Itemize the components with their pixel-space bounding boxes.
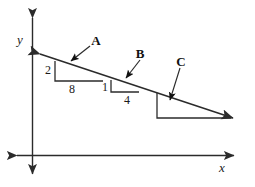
triangle-b-rise-label: 1 [102,80,108,94]
x-axis-label: x [218,160,225,175]
triangle-a-run-label: 8 [69,82,75,96]
triangle-a-legs [55,61,103,81]
slope-triangles-figure: y x A B C 2 8 1 4 [0,0,255,187]
slope-triangle-a [55,61,103,81]
label-c: C [176,54,185,69]
pointer-a-arrow [71,46,90,61]
label-b: B [136,46,145,61]
y-axis-label: y [15,32,23,47]
figure-canvas: y x A B C 2 8 1 4 [0,0,255,187]
label-a: A [91,33,101,48]
pointer-c-arrow [170,68,180,100]
triangle-a-rise-label: 2 [45,63,51,77]
pointer-b-arrow [126,60,140,78]
triangle-b-run-label: 4 [124,93,130,107]
